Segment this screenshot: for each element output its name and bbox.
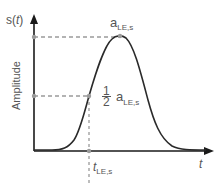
tle-label-sub: LE,s [96, 167, 112, 176]
half-label-denominator: 2 [102, 97, 111, 107]
y-symbol-close: ) [19, 13, 23, 27]
y-axis-label: Amplitude [11, 56, 22, 116]
tle-marker [87, 149, 91, 153]
y-axis-symbol: s(t) [6, 14, 23, 26]
half-y-marker [32, 94, 36, 98]
half-marker [87, 94, 91, 98]
peak-y-marker [32, 35, 36, 39]
tle-label: tLE,s [93, 161, 112, 173]
y-axis-arrow-icon [30, 14, 38, 24]
half-label: 1 2 aLE,s [102, 86, 139, 107]
x-axis-arrow-icon [204, 147, 214, 155]
peak-marker [118, 34, 122, 38]
half-label-sub: LE,s [123, 98, 139, 107]
peak-label: aLE,s [110, 16, 133, 29]
y-symbol-s: s( [6, 13, 16, 27]
peak-label-sub: LE,s [117, 23, 133, 32]
x-axis-label: t [199, 158, 202, 170]
